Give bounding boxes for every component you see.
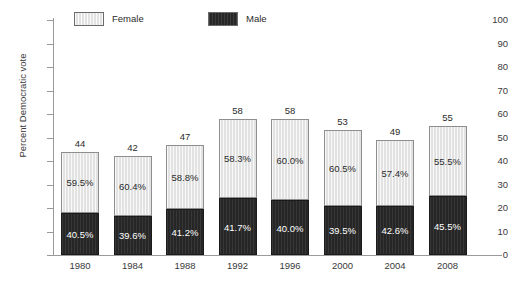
segment-label-female: 59.5%: [62, 178, 98, 188]
segment-label-female: 60.0%: [272, 156, 308, 166]
y-tick-mark: [47, 20, 53, 21]
bar-segment-male-2008[interactable]: 45.5%: [429, 196, 467, 255]
bar-segment-male-1992[interactable]: 41.7%: [219, 198, 257, 255]
bar-1984[interactable]: 60.4%39.6%42: [114, 156, 152, 255]
y-tick-label: 70: [464, 86, 508, 96]
bar-total-label-2008: 55: [429, 113, 467, 123]
x-tick-label-1996: 1996: [265, 261, 315, 271]
y-tick-mark: [47, 114, 53, 115]
y-tick-mark: [47, 91, 53, 92]
y-tick-label: 30: [464, 180, 508, 190]
bar-total-label-1992: 58: [219, 106, 257, 116]
y-tick-label: 90: [464, 39, 508, 49]
bar-total-label-2000: 53: [324, 117, 362, 127]
segment-label-male: 39.5%: [325, 226, 361, 236]
y-tick-label: 0: [464, 250, 508, 260]
y-tick-mark: [47, 161, 53, 162]
segment-label-female: 55.5%: [430, 157, 466, 167]
bar-2008[interactable]: 55.5%45.5%55: [429, 126, 467, 255]
bar-segment-female-2008[interactable]: 55.5%: [429, 126, 467, 196]
x-tick-label-1988: 1988: [160, 261, 210, 271]
segment-label-male: 40.5%: [62, 230, 98, 240]
y-tick-label: 60: [464, 109, 508, 119]
bar-1992[interactable]: 58.3%41.7%58: [219, 119, 257, 255]
y-axis-title: Percent Democratic vote: [17, 26, 28, 186]
bar-2004[interactable]: 57.4%42.6%49: [376, 140, 414, 255]
x-tick-label-1980: 1980: [55, 261, 105, 271]
x-tick-label-1984: 1984: [108, 261, 158, 271]
bar-segment-female-1980[interactable]: 59.5%: [61, 152, 99, 214]
segment-label-female: 58.8%: [167, 173, 203, 183]
bar-segment-female-1996[interactable]: 60.0%: [271, 119, 309, 201]
y-tick-mark: [47, 255, 53, 256]
bar-1980[interactable]: 59.5%40.5%44: [61, 152, 99, 255]
x-tick-label-1992: 1992: [213, 261, 263, 271]
bar-segment-male-1984[interactable]: 39.6%: [114, 216, 152, 255]
y-tick-label: 80: [464, 62, 508, 72]
segment-label-male: 39.6%: [115, 231, 151, 241]
y-tick-label: 50: [464, 133, 508, 143]
y-axis-line: [53, 18, 54, 256]
male-swatch-icon: [208, 12, 238, 26]
bar-1996[interactable]: 60.0%40.0%58: [271, 119, 309, 255]
x-tick-label-2008: 2008: [423, 261, 473, 271]
legend-label: Female: [112, 14, 144, 24]
segment-label-male: 42.6%: [377, 226, 413, 236]
bar-segment-male-1988[interactable]: 41.2%: [166, 209, 204, 255]
bar-1988[interactable]: 58.8%41.2%47: [166, 145, 204, 255]
segment-label-male: 41.2%: [167, 228, 203, 238]
bar-total-label-1996: 58: [271, 106, 309, 116]
bar-segment-female-1988[interactable]: 58.8%: [166, 145, 204, 210]
bar-total-label-1980: 44: [61, 139, 99, 149]
segment-label-male: 45.5%: [430, 222, 466, 232]
segment-label-female: 60.5%: [325, 164, 361, 174]
y-tick-label: 10: [464, 227, 508, 237]
segment-label-male: 40.0%: [272, 224, 308, 234]
bar-segment-male-2004[interactable]: 42.6%: [376, 206, 414, 255]
y-tick-label: 40: [464, 156, 508, 166]
bar-total-label-2004: 49: [376, 127, 414, 137]
y-tick-mark: [47, 44, 53, 45]
segment-label-female: 60.4%: [115, 182, 151, 192]
bar-2000[interactable]: 60.5%39.5%53: [324, 130, 362, 255]
bar-segment-male-2000[interactable]: 39.5%: [324, 206, 362, 255]
y-tick-label: 20: [464, 203, 508, 213]
y-tick-mark: [47, 67, 53, 68]
y-tick-mark: [47, 138, 53, 139]
bar-segment-male-1996[interactable]: 40.0%: [271, 200, 309, 255]
bar-total-label-1984: 42: [114, 143, 152, 153]
y-tick-mark: [47, 232, 53, 233]
bar-segment-male-1980[interactable]: 40.5%: [61, 213, 99, 255]
bar-total-label-1988: 47: [166, 132, 204, 142]
segment-label-female: 57.4%: [377, 169, 413, 179]
segment-label-male: 41.7%: [220, 223, 256, 233]
bar-segment-female-2004[interactable]: 57.4%: [376, 140, 414, 206]
bar-segment-female-2000[interactable]: 60.5%: [324, 130, 362, 205]
y-tick-label: 100: [464, 15, 508, 25]
y-tick-mark: [47, 208, 53, 209]
x-tick-label-2000: 2000: [318, 261, 368, 271]
y-tick-mark: [47, 185, 53, 186]
bar-segment-female-1992[interactable]: 58.3%: [219, 119, 257, 198]
legend-label: Male: [246, 14, 267, 24]
female-swatch-icon: [74, 12, 104, 26]
segment-label-female: 58.3%: [220, 154, 256, 164]
x-axis-line: [53, 255, 502, 256]
x-tick-label-2004: 2004: [370, 261, 420, 271]
bar-segment-female-1984[interactable]: 60.4%: [114, 156, 152, 216]
stacked-bar-chart: Percent Democratic vote 0102030405060708…: [0, 0, 508, 289]
